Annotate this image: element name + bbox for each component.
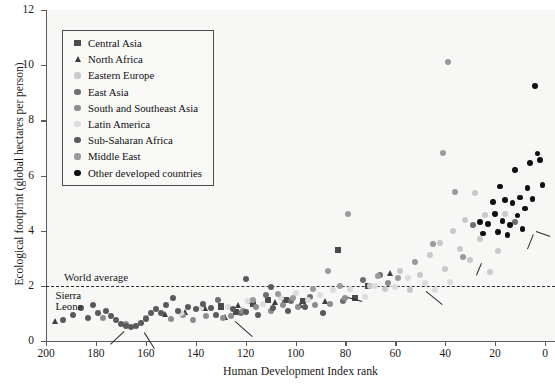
data-point	[85, 315, 91, 321]
x-tick	[395, 341, 396, 346]
legend-item-north-africa[interactable]: North Africa	[63, 51, 213, 67]
legend-item-other-developed-countries[interactable]: Other developed countries	[63, 165, 213, 181]
data-point	[507, 222, 513, 228]
x-tick	[445, 341, 446, 346]
circle-marker-icon	[72, 102, 83, 113]
data-point	[193, 306, 199, 312]
data-point	[260, 301, 266, 307]
x-tick-label: 160	[126, 347, 166, 359]
x-tick	[246, 341, 247, 346]
data-point	[200, 301, 206, 307]
circle-marker-icon	[72, 151, 83, 162]
x-tick-label: 20	[475, 347, 515, 359]
circle-marker-icon	[72, 167, 83, 178]
data-point	[347, 286, 353, 292]
data-point	[203, 313, 209, 319]
y-tick	[41, 10, 46, 11]
x-tick	[495, 341, 496, 346]
data-point	[450, 228, 456, 234]
x-tick	[146, 341, 147, 346]
data-point	[250, 297, 256, 303]
data-point	[163, 302, 169, 308]
x-tick-label: 60	[375, 347, 415, 359]
circle-marker-icon	[72, 70, 83, 81]
data-point	[220, 315, 226, 321]
legend: Central AsiaNorth AfricaEastern EuropeEa…	[62, 30, 214, 186]
x-tick	[345, 341, 346, 346]
data-point	[243, 276, 249, 282]
point-label-line2: Leone	[55, 301, 82, 313]
data-point	[382, 286, 388, 292]
x-tick	[296, 341, 297, 346]
data-point	[512, 167, 518, 173]
scatter-chart: 024681012 200180160140120100806040200 Ec…	[0, 0, 555, 386]
legend-label: Eastern Europe	[88, 69, 154, 81]
data-point	[462, 217, 468, 223]
data-point	[175, 308, 181, 314]
data-point	[310, 286, 316, 292]
data-point	[505, 232, 511, 238]
y-tick	[41, 65, 46, 66]
data-point	[228, 313, 234, 319]
data-point	[330, 287, 336, 293]
data-point	[253, 304, 259, 310]
data-point	[255, 312, 261, 318]
data-point	[387, 270, 393, 276]
circle-marker-icon	[72, 135, 83, 146]
legend-label: East Asia	[88, 86, 128, 98]
legend-label: Central Asia	[88, 37, 142, 49]
y-axis-title: Ecological footprint (global hectares pe…	[13, 14, 25, 334]
data-point	[243, 309, 249, 315]
data-point	[185, 304, 191, 310]
data-point	[168, 316, 174, 322]
data-point	[305, 297, 311, 303]
data-point	[375, 273, 381, 279]
world-average-line	[46, 286, 555, 287]
data-point	[397, 268, 403, 274]
y-tick	[41, 120, 46, 121]
legend-item-east-asia[interactable]: East Asia	[63, 84, 213, 100]
legend-item-latin-america[interactable]: Latin America	[63, 116, 213, 132]
y-axis-line	[46, 10, 47, 341]
data-point	[480, 231, 486, 237]
data-point	[495, 229, 501, 235]
data-point	[467, 257, 473, 263]
x-tick	[96, 341, 97, 346]
legend-item-sub-saharan-africa[interactable]: Sub-Saharan Africa	[63, 132, 213, 148]
data-point	[345, 211, 351, 217]
x-tick-label: 140	[176, 347, 216, 359]
circle-marker-icon	[72, 86, 83, 97]
data-point	[492, 211, 498, 217]
data-point	[490, 199, 496, 205]
data-point	[527, 160, 533, 166]
data-point	[325, 268, 331, 274]
data-point	[218, 303, 224, 309]
x-tick-label: 100	[276, 347, 316, 359]
x-tick-label: 80	[325, 347, 365, 359]
point-label: SierraLeone	[55, 290, 82, 313]
data-point	[143, 316, 149, 322]
legend-item-south-and-southeast-asia[interactable]: South and Southeast Asia	[63, 100, 213, 116]
data-point	[447, 279, 453, 285]
data-point	[213, 312, 219, 318]
x-axis-line	[46, 341, 555, 342]
data-point	[532, 83, 538, 89]
legend-label: Sub-Saharan Africa	[88, 134, 173, 146]
data-point	[208, 305, 214, 311]
legend-label: Latin America	[88, 118, 150, 130]
legend-label: North Africa	[88, 53, 143, 65]
data-point	[470, 222, 476, 228]
data-point	[385, 280, 391, 286]
data-point	[295, 304, 301, 310]
x-tick-label: 180	[76, 347, 116, 359]
x-axis-title: Human Development Index rank	[46, 364, 555, 379]
square-marker-icon	[72, 38, 83, 49]
y-tick	[41, 231, 46, 232]
x-tick-label: 120	[226, 347, 266, 359]
legend-item-eastern-europe[interactable]: Eastern Europe	[63, 67, 213, 83]
triangle-marker-icon	[72, 54, 83, 65]
legend-item-middle-east[interactable]: Middle East	[63, 148, 213, 164]
legend-label: Other developed countries	[88, 167, 202, 179]
x-tick-label: 40	[425, 347, 465, 359]
legend-item-central-asia[interactable]: Central Asia	[63, 35, 213, 51]
